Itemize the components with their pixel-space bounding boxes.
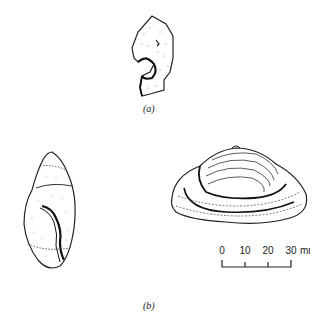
scale-tick-20: 20 xyxy=(262,245,274,256)
bivalve-shell-drawing xyxy=(166,140,312,240)
panel-label-a: (a) xyxy=(143,103,155,114)
shell-fragment-drawing xyxy=(120,10,190,100)
panel-label-b: (b) xyxy=(143,300,155,311)
scale-tick-0: 0 xyxy=(219,245,225,256)
scale-tick-30: 30 xyxy=(285,245,297,256)
scale-tick-10: 10 xyxy=(239,245,251,256)
scale-unit: mm xyxy=(300,245,310,256)
scale-bar: 0 10 20 30 mm xyxy=(200,240,310,280)
gastropod-shell-drawing xyxy=(12,148,87,273)
